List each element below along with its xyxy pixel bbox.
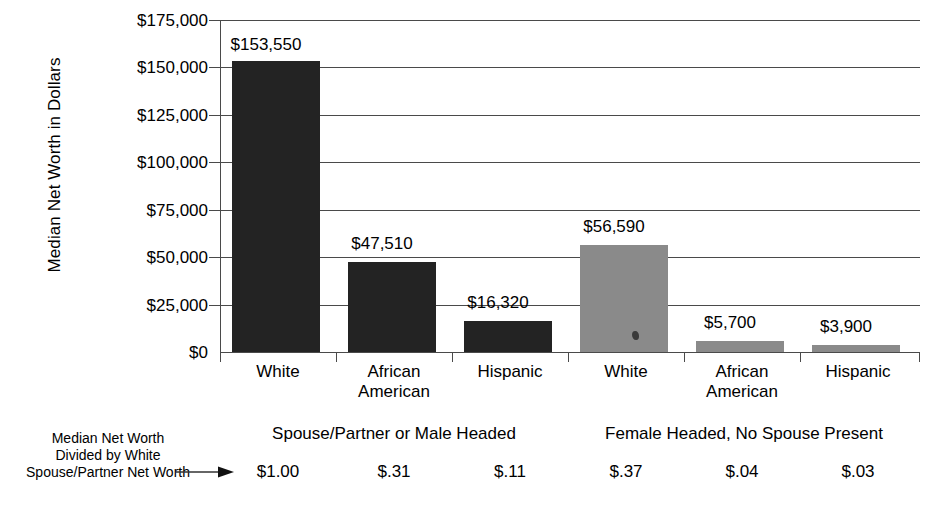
y-tick-label-25000: $25,000 [88, 297, 208, 314]
x-category-label-1-line1: White [220, 362, 336, 382]
gridline-75000 [220, 210, 920, 211]
x-axis-divider-2 [452, 352, 453, 362]
y-tick-label-75000: $75,000 [88, 202, 208, 219]
bar-value-label-4: $56,590 [560, 218, 668, 235]
bar-hispanic-male-headed[interactable] [464, 321, 552, 352]
gridline-125000 [220, 115, 920, 116]
x-category-label-5-line2: American [684, 382, 800, 402]
y-tick-label-0: $0 [88, 344, 208, 361]
bar-value-label-6: $3,900 [792, 318, 900, 335]
ratio-value-3: $.11 [452, 462, 568, 482]
x-axis-divider-4 [684, 352, 685, 362]
y-tick-label-175000: $175,000 [88, 12, 208, 29]
bar-hispanic-female-headed[interactable] [812, 345, 900, 352]
x-axis-divider-0 [220, 352, 221, 362]
ratio-annotation-line2: Divided by White [8, 447, 208, 464]
bar-african-american-male-headed[interactable] [348, 262, 436, 352]
y-axis-title: Median Net Worth in Dollars [45, 0, 65, 330]
y-axis-tick-labels: $175,000 $150,000 $125,000 $100,000 $75,… [88, 0, 208, 372]
ratio-value-1: $1.00 [220, 462, 336, 482]
bar-value-label-1: $153,550 [212, 36, 320, 53]
y-tick-label-50000: $50,000 [88, 249, 208, 266]
group-header-female-headed: Female Headed, No Spouse Present [568, 424, 920, 444]
bar-value-label-3: $16,320 [444, 294, 552, 311]
x-category-label-3: Hispanic [452, 362, 568, 382]
y-tick-label-150000: $150,000 [88, 59, 208, 76]
group-header-male-headed: Spouse/Partner or Male Headed [220, 424, 568, 444]
ratio-value-4: $.37 [568, 462, 684, 482]
x-category-label-2-line1: African [336, 362, 452, 382]
gridline-175000 [220, 20, 920, 21]
y-tick-label-125000: $125,000 [88, 107, 208, 124]
x-category-label-5: African American [684, 362, 800, 402]
ratio-value-2: $.31 [336, 462, 452, 482]
gridline-100000 [220, 162, 920, 163]
chart-figure: Median Net Worth in Dollars $175,000 $15… [0, 0, 939, 506]
x-axis-divider-3 [568, 352, 569, 362]
x-category-label-1: White [220, 362, 336, 382]
x-axis-divider-5 [800, 352, 801, 362]
x-axis-divider-6 [919, 352, 920, 362]
x-axis-divider-1 [336, 352, 337, 362]
ratio-annotation-line1: Median Net Worth [8, 430, 208, 447]
ratio-value-5: $.04 [684, 462, 800, 482]
x-category-label-2: African American [336, 362, 452, 402]
bar-value-label-2: $47,510 [328, 235, 436, 252]
bar-african-american-female-headed[interactable] [696, 341, 784, 352]
bar-white-male-headed[interactable] [232, 61, 320, 352]
plot-area [220, 20, 920, 352]
gridline-25000 [220, 305, 920, 306]
x-category-label-6-line1: Hispanic [800, 362, 916, 382]
x-category-label-4: White [568, 362, 684, 382]
print-speck [632, 331, 639, 340]
x-category-label-4-line1: White [568, 362, 684, 382]
gridline-50000 [220, 257, 920, 258]
x-axis-line [220, 352, 920, 353]
y-tick-label-100000: $100,000 [88, 154, 208, 171]
bar-value-label-5: $5,700 [676, 314, 784, 331]
x-category-label-3-line1: Hispanic [452, 362, 568, 382]
ratio-value-6: $.03 [800, 462, 916, 482]
x-category-label-5-line1: African [684, 362, 800, 382]
bar-white-female-headed[interactable] [580, 245, 668, 352]
x-category-label-2-line2: American [336, 382, 452, 402]
gridline-150000 [220, 67, 920, 68]
x-category-label-6: Hispanic [800, 362, 916, 382]
